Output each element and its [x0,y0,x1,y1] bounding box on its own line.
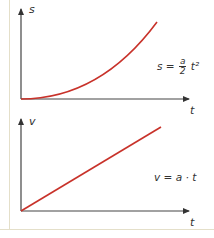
chart-velocity-time [21,119,189,211]
t-axis-label-top: t [190,105,194,116]
chart-position-time [21,9,189,99]
formula-s: s = a 2 t² [157,57,199,76]
t-axis-label-bottom: t [190,217,194,228]
formula-s-lhs: s = [157,60,175,72]
formula-v: v = a · t [154,172,196,183]
formula-s-fraction: a 2 [179,57,187,76]
s-axis-label: s [29,4,35,15]
s-curve [21,22,157,99]
fraction-denominator: 2 [179,67,187,76]
formula-s-rhs: t² [191,60,199,72]
v-axis-label: v [29,116,36,127]
v-line [21,127,161,211]
